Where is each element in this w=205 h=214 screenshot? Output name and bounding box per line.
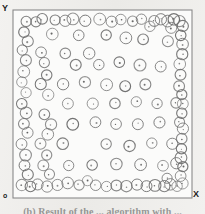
- data-point-center-dot: [94, 184, 95, 185]
- data-point-center-dot: [99, 65, 100, 66]
- data-point-center-dot: [106, 85, 107, 86]
- data-point-center-dot: [170, 184, 172, 186]
- data-point-center-dot: [178, 121, 179, 122]
- data-point-center-dot: [39, 83, 40, 84]
- data-point-center-dot: [36, 183, 37, 184]
- data-point-center-dot: [182, 103, 184, 105]
- data-point-center-dot: [26, 132, 28, 134]
- data-point-center-dot: [167, 177, 168, 178]
- data-point-center-dot: [181, 149, 182, 150]
- x-axis-label: X: [193, 190, 199, 199]
- data-point-center-dot: [25, 165, 27, 167]
- data-point-center-dot: [138, 64, 140, 66]
- data-point-center-dot: [29, 186, 31, 188]
- data-point-center-dot: [146, 186, 148, 188]
- data-point-center-dot: [28, 175, 29, 176]
- scatter-figure: Y X o: [0, 0, 205, 214]
- data-point-center-dot: [39, 142, 41, 144]
- data-point-center-dot: [180, 174, 181, 175]
- data-point-center-dot: [68, 165, 69, 166]
- data-point-center-dot: [167, 41, 169, 43]
- data-point-center-dot: [171, 143, 172, 144]
- data-point-center-dot: [140, 164, 142, 166]
- data-point-center-dot: [54, 20, 55, 21]
- data-point-center-dot: [119, 62, 121, 64]
- data-point-center-dot: [144, 84, 146, 86]
- data-point-center-dot: [20, 184, 22, 186]
- data-point-center-dot: [43, 63, 44, 64]
- data-point-center-dot: [77, 183, 79, 185]
- data-point-center-dot: [46, 155, 48, 157]
- scatter-plot-canvas: [0, 0, 205, 214]
- data-point-center-dot: [175, 102, 176, 103]
- data-point-center-dot: [161, 164, 163, 166]
- data-point-center-dot: [181, 156, 183, 158]
- data-point-center-dot: [21, 103, 23, 105]
- data-point-center-dot: [83, 81, 85, 83]
- data-point-center-dot: [125, 37, 127, 39]
- data-point-center-dot: [178, 85, 180, 87]
- data-point-center-dot: [181, 94, 182, 95]
- data-point-center-dot: [89, 54, 90, 55]
- data-point-center-dot: [135, 184, 137, 186]
- data-point-center-dot: [63, 19, 65, 21]
- data-point-center-dot: [35, 21, 37, 23]
- data-point-center-dot: [76, 65, 78, 67]
- data-point-center-dot: [26, 41, 28, 43]
- data-point-center-dot: [90, 164, 92, 166]
- data-point-center-dot: [106, 34, 108, 36]
- data-point-center-dot: [179, 63, 181, 65]
- data-point-center-dot: [107, 186, 108, 187]
- data-point-center-dot: [115, 124, 116, 125]
- data-point-center-dot: [48, 174, 49, 175]
- data-point-center-dot: [116, 184, 117, 185]
- data-point-center-dot: [141, 18, 143, 20]
- data-point-center-dot: [22, 50, 23, 51]
- data-point-center-dot: [84, 21, 85, 22]
- data-point-center-dot: [154, 185, 156, 187]
- data-point-center-dot: [67, 103, 69, 105]
- data-point-center-dot: [137, 122, 138, 123]
- data-point-center-dot: [25, 91, 26, 92]
- data-point-center-dot: [136, 100, 138, 102]
- data-point-center-dot: [115, 102, 116, 103]
- data-point-center-dot: [47, 95, 49, 97]
- data-point-center-dot: [182, 44, 184, 46]
- data-point-center-dot: [182, 26, 184, 28]
- data-point-center-dot: [121, 19, 123, 21]
- data-point-center-dot: [50, 124, 52, 126]
- data-point-center-dot: [179, 75, 181, 77]
- data-point-center-dot: [24, 31, 25, 32]
- data-point-center-dot: [26, 113, 28, 115]
- data-point-center-dot: [63, 142, 65, 144]
- data-point-center-dot: [143, 39, 145, 41]
- data-point-center-dot: [182, 53, 183, 54]
- data-point-center-dot: [183, 129, 184, 130]
- data-point-center-dot: [78, 34, 79, 35]
- data-point-center-dot: [41, 19, 42, 20]
- data-point-center-dot: [181, 113, 183, 115]
- data-point-center-dot: [127, 146, 129, 148]
- data-point-center-dot: [47, 133, 48, 134]
- data-point-center-dot: [157, 104, 159, 106]
- data-point-center-dot: [181, 139, 183, 141]
- data-point-center-dot: [26, 21, 28, 23]
- data-point-center-dot: [96, 122, 98, 124]
- data-point-center-dot: [72, 123, 73, 124]
- data-point-center-dot: [51, 33, 53, 35]
- data-point-center-dot: [93, 103, 94, 104]
- y-axis-label: Y: [2, 4, 8, 13]
- figure-caption: (b) Result of the ... algorithm with ...: [0, 206, 205, 214]
- data-point-center-dot: [181, 183, 182, 184]
- data-point-center-dot: [111, 21, 113, 23]
- data-point-center-dot: [148, 26, 150, 28]
- data-point-center-dot: [125, 85, 127, 87]
- data-point-center-dot: [21, 82, 22, 83]
- data-point-center-dot: [126, 186, 128, 188]
- data-point-center-dot: [170, 28, 172, 30]
- data-point-center-dot: [21, 144, 22, 145]
- data-point-center-dot: [153, 20, 154, 21]
- data-point-center-dot: [106, 144, 107, 145]
- data-point-center-dot: [22, 70, 24, 72]
- data-point-center-dot: [63, 83, 64, 84]
